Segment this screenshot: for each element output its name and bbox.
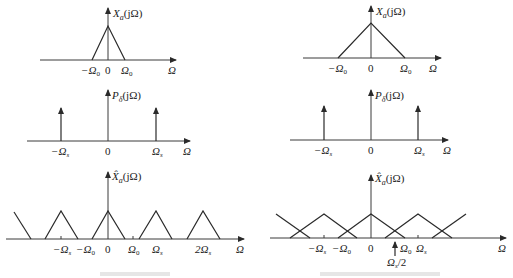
x-axis-label: Ω (168, 64, 176, 76)
caption-right-faint (320, 272, 440, 276)
replica-partial-left (14, 212, 31, 239)
x-axis-label: Ω (498, 242, 506, 254)
tick-neg-omegas: −Ωs (51, 145, 69, 159)
panel-bottom-left-sampled-spectrum: X̂a(jΩ) −Ωs −Ω0 0 Ω0 Ωs 2Ωs Ω (6, 170, 244, 257)
x-axis-label: Ω (183, 145, 191, 157)
tick-neg-omegas: −Ωs (53, 243, 71, 257)
y-axis-label: X̂a(jΩ) (374, 172, 405, 187)
x-axis-label: Ω (429, 62, 437, 74)
tick-2omegas: 2Ωs (195, 243, 211, 257)
tick-neg-omega0: −Ω0 (76, 243, 95, 257)
tick-zero: 0 (368, 62, 374, 74)
tick-neg-omegas: −Ωs (308, 242, 326, 256)
tick-omegas: Ωs (152, 145, 163, 159)
x-axis-label: Ω (443, 144, 451, 156)
replica-omegas (385, 214, 452, 238)
x-axis-label: Ω (236, 243, 244, 255)
tick-zero: 0 (368, 144, 374, 156)
replica-neg-omegas (290, 214, 357, 238)
tick-neg-omega0: −Ω0 (332, 242, 351, 256)
panel-top-left-spectrum: Xa(jΩ) −Ω0 0 Ω0 Ω (40, 7, 176, 78)
tick-omega0: Ω0 (400, 62, 412, 76)
panel-bottom-right-aliased-spectrum: X̂a(jΩ) −Ωs −Ω0 0 Ω0 Ωs Ωs/2 Ω (270, 172, 506, 270)
tick-neg-omegas: −Ωs (314, 144, 332, 158)
panel-top-right-spectrum: Xa(jΩ) −Ω0 0 Ω0 Ω (303, 5, 441, 76)
replica-partial-right (432, 214, 466, 238)
y-axis-label: Xa(jΩ) (112, 7, 143, 22)
replica-partial-left (276, 214, 310, 238)
half-sampling-label: Ωs/2 (387, 256, 406, 270)
tick-zero: 0 (105, 243, 111, 255)
tick-zero: 0 (105, 145, 111, 157)
tick-omegas: Ωs (416, 242, 427, 256)
y-axis-label: Pδ(jΩ) (374, 89, 404, 104)
y-axis-label: Pδ(jΩ) (111, 89, 141, 104)
y-axis-label: Xa(jΩ) (375, 5, 406, 20)
tick-omegas: Ωs (414, 144, 425, 158)
sampling-spectrum-figure: Xa(jΩ) −Ω0 0 Ω0 Ω Xa(jΩ) −Ω0 0 Ω0 Ω Pδ(j… (0, 0, 513, 278)
replica-2omegas (187, 211, 220, 239)
tick-neg-omega0: −Ω0 (81, 64, 100, 78)
caption-left-faint (100, 272, 170, 276)
tick-zero: 0 (105, 64, 111, 76)
tick-omega0: Ω0 (400, 242, 412, 256)
tick-zero: 0 (368, 242, 374, 254)
panel-middle-right-impulse-train: Pδ(jΩ) −Ωs 0 Ωs Ω (290, 89, 451, 158)
tick-omegas: Ωs (152, 243, 163, 257)
replica-neg-omegas (45, 211, 78, 239)
tick-omega0: Ω0 (128, 243, 140, 257)
y-axis-label: X̂a(jΩ) (111, 170, 142, 185)
tick-neg-omega0: −Ω0 (328, 62, 347, 76)
tick-omega0: Ω0 (121, 64, 133, 78)
replica-omegas (139, 211, 172, 239)
panel-middle-left-impulse-train: Pδ(jΩ) −Ωs 0 Ωs Ω (27, 89, 191, 159)
